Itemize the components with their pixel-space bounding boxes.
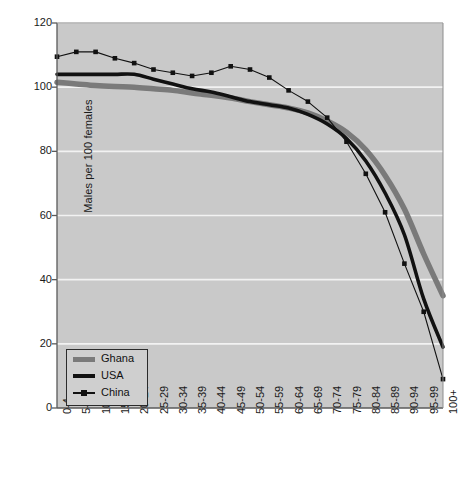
x-tick-90-94: 90-94: [409, 386, 420, 414]
china-line-swatch-icon: [73, 387, 95, 399]
legend-item-china: China: [67, 384, 147, 401]
x-tick-100+: 100+: [448, 389, 459, 414]
x-tick-80-84: 80-84: [371, 386, 382, 414]
legend-item-usa: USA: [67, 367, 147, 384]
x-tick-25-29: 25-29: [159, 386, 170, 414]
x-tick-45-49: 45-49: [236, 386, 247, 414]
x-tick-75-79: 75-79: [352, 386, 363, 414]
x-tick-85-89: 85-89: [390, 386, 401, 414]
legend-label-usa: USA: [101, 370, 124, 381]
usa-line-swatch-icon: [73, 370, 95, 382]
x-tick-55-59: 55-59: [274, 386, 285, 414]
x-tick-40-44: 40-44: [216, 386, 227, 414]
ghana-line-swatch-icon: [73, 353, 95, 365]
legend-label-ghana: Ghana: [101, 353, 134, 364]
x-tick-70-74: 70-74: [332, 386, 343, 414]
x-tick-60-64: 60-64: [294, 386, 305, 414]
x-tick-30-34: 30-34: [178, 386, 189, 414]
legend-label-china: China: [101, 387, 130, 398]
x-tick-95-99: 95-99: [429, 386, 440, 414]
x-tick-35-39: 35-39: [197, 386, 208, 414]
x-axis-tick-labels: 0-45-910-1415-1920-2425-2930-3435-3940-4…: [0, 0, 468, 480]
chart-container: Males per 100 females 020406080100120 0-…: [0, 0, 468, 480]
chart-legend: Ghana USA China: [66, 349, 148, 406]
legend-item-ghana: Ghana: [67, 350, 147, 367]
x-tick-50-54: 50-54: [255, 386, 266, 414]
x-tick-65-69: 65-69: [313, 386, 324, 414]
